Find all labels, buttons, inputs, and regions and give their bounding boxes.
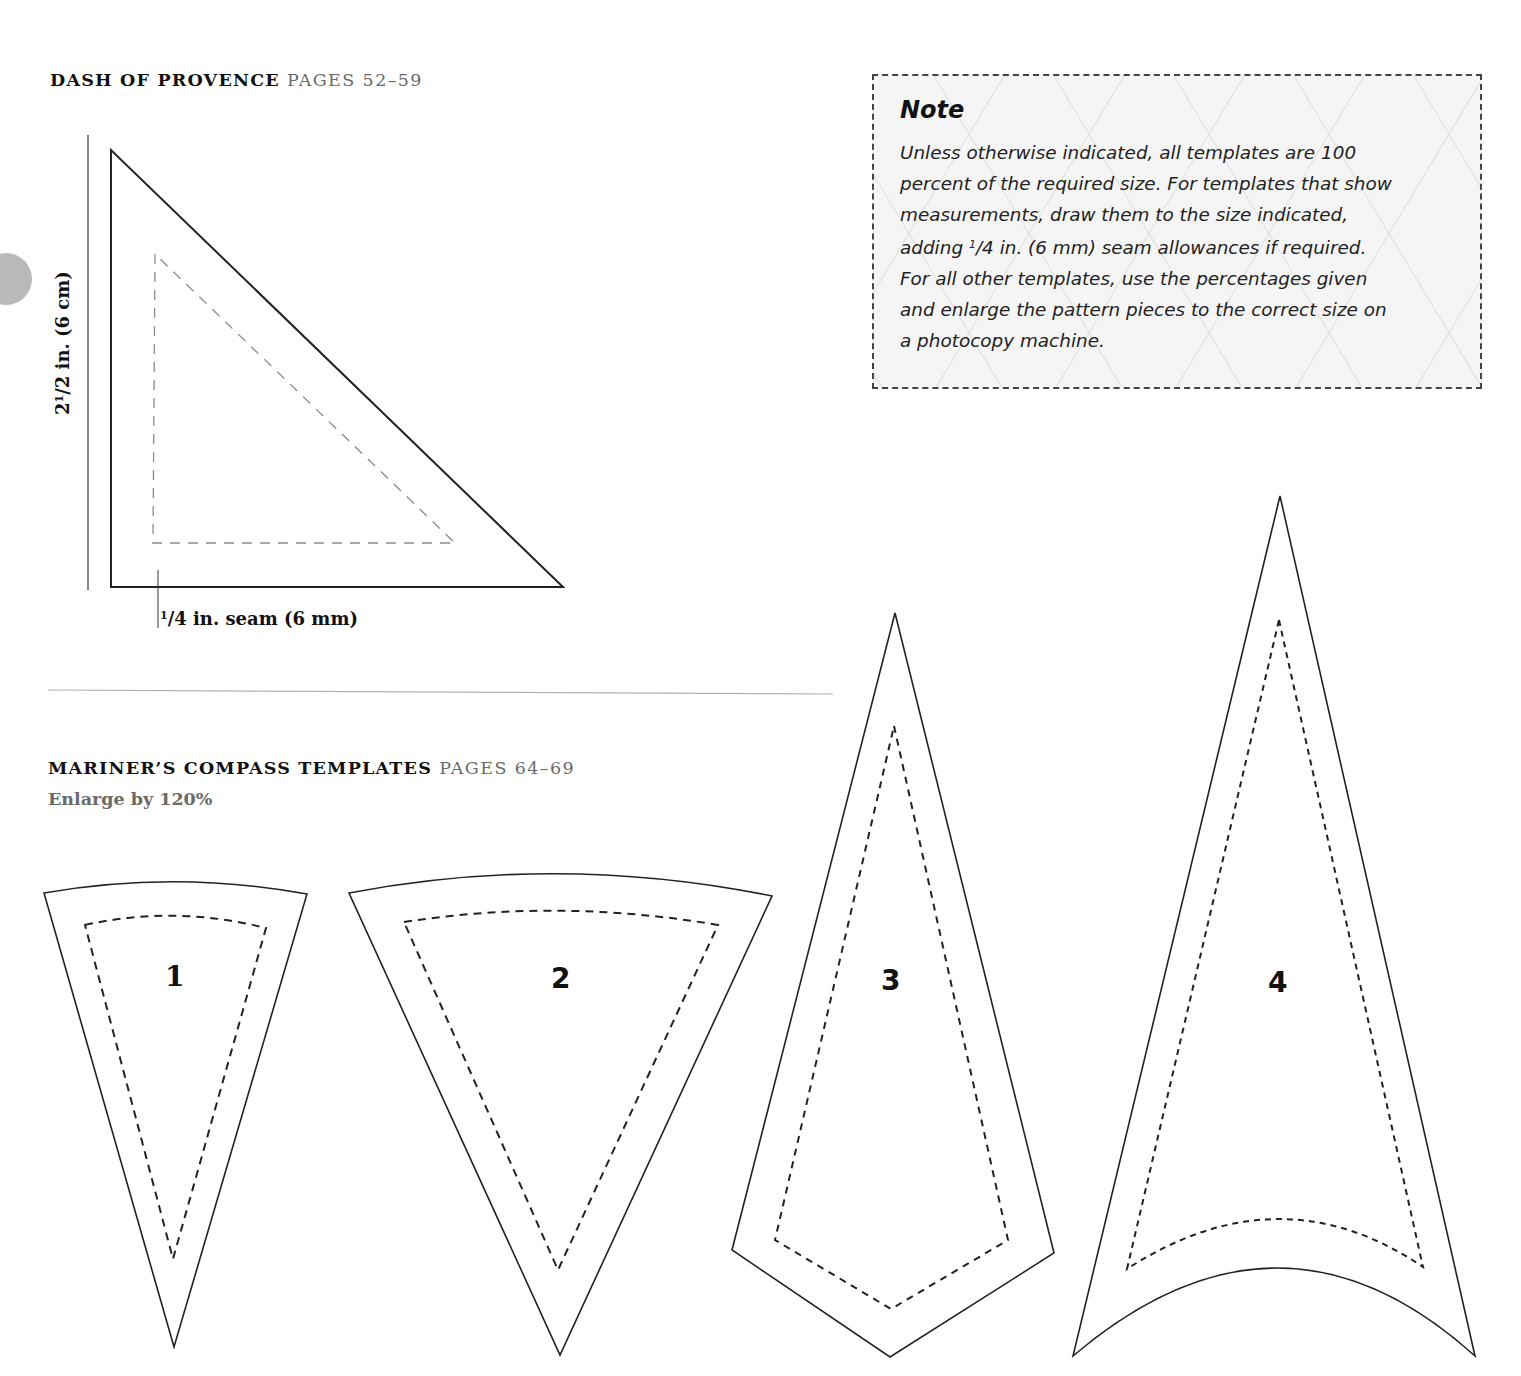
- piece-number-4: 4: [1268, 966, 1287, 999]
- section-heading-mariners-compass: MARINER’S COMPASS TEMPLATES PAGES 64–69: [48, 758, 575, 778]
- triangle-seam-line: [153, 254, 455, 543]
- section-divider: [48, 690, 833, 694]
- section-title: MARINER’S COMPASS TEMPLATES: [48, 758, 432, 778]
- note-box: Note Unless otherwise indicated, all tem…: [872, 74, 1482, 389]
- piece-number-3: 3: [881, 964, 900, 997]
- piece-number-2: 2: [551, 962, 570, 995]
- compass-piece-2: [349, 874, 772, 1355]
- enlarge-instruction: Enlarge by 120%: [48, 789, 212, 809]
- dash-of-provence-triangle-template: [88, 135, 563, 628]
- triangle-cut-line: [111, 150, 563, 587]
- note-body: Unless otherwise indicated, all template…: [900, 138, 1470, 357]
- piece-number-1: 1: [165, 960, 184, 993]
- compass-piece-4: [1073, 496, 1475, 1356]
- note-title: Note: [900, 96, 964, 124]
- compass-piece-1: [44, 882, 307, 1347]
- page-reference: PAGES 64–69: [439, 758, 575, 778]
